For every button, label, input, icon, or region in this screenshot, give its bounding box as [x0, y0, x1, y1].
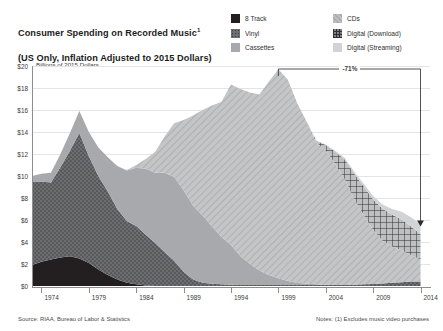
x-axis-tick-label: 1974 [44, 294, 58, 301]
x-axis-tick-label: 1979 [92, 294, 106, 301]
x-axis-tick-label: 2004 [329, 294, 343, 301]
legend-column-left: 8 TrackVinylCassettes [231, 14, 333, 52]
x-axis-tick [136, 287, 137, 293]
legend-swatch-icon-cds [333, 14, 342, 23]
legend-label-vinyl: Vinyl [245, 29, 259, 38]
title-footnote-marker: 1 [197, 27, 200, 33]
y-axis-tick-label: $20 [6, 63, 28, 70]
y-axis-tick-label: $2 [6, 261, 28, 268]
legend-item-8track[interactable]: 8 Track [231, 14, 333, 23]
y-axis-tick-label: $10 [6, 173, 28, 180]
x-axis-tick [89, 287, 90, 293]
legend-label-cds: CDs [347, 14, 360, 23]
x-axis-tick-label: 2009 [376, 294, 390, 301]
legend-item-download[interactable]: Digital (Download) [333, 29, 439, 38]
y-axis-tick-label: $14 [6, 129, 28, 136]
y-axis-tick-label: $4 [6, 239, 28, 246]
x-axis-tick [326, 287, 327, 293]
x-axis-tick-label: 2014 [424, 294, 438, 301]
x-axis-tick [41, 287, 42, 293]
legend-label-streaming: Digital (Streaming) [347, 43, 402, 52]
legend-swatch-icon-8track [231, 14, 240, 23]
x-axis-tick-label: 1989 [187, 294, 201, 301]
page-title: Consumer Spending on Recorded Music1 (US… [18, 12, 212, 65]
title-line-1: Consumer Spending on Recorded Music [18, 28, 197, 38]
y-axis-tick-label: $16 [6, 107, 28, 114]
x-axis-tick-label: 1999 [281, 294, 295, 301]
stacked-area-chart [32, 66, 430, 286]
legend-swatch-icon-streaming [333, 43, 342, 52]
x-axis-tick [278, 287, 279, 293]
chart-legend: 8 TrackVinylCassettes CDsDigital (Downlo… [231, 14, 439, 52]
y-axis-tick-label: $18 [6, 85, 28, 92]
legend-swatch-icon-download [333, 29, 342, 38]
x-axis-tick [184, 287, 185, 293]
source-note: Source: RIAA, Bureau of Labor & Statisti… [18, 316, 130, 322]
legend-column-right: CDsDigital (Download)Digital (Streaming) [333, 14, 439, 52]
legend-swatch-icon-cassettes [231, 43, 240, 52]
legend-swatch-icon-vinyl [231, 29, 240, 38]
area-series-group [32, 69, 421, 286]
x-axis-tick [421, 287, 422, 293]
legend-item-cassettes[interactable]: Cassettes [231, 43, 333, 52]
legend-label-download: Digital (Download) [347, 29, 401, 38]
legend-label-cassettes: Cassettes [245, 43, 274, 52]
x-axis-tick [231, 287, 232, 293]
legend-item-streaming[interactable]: Digital (Streaming) [333, 43, 439, 52]
x-axis-tick-label: 1994 [234, 294, 248, 301]
footnote-note: Notes: (1) Excludes music video purchase… [316, 316, 429, 322]
y-axis-tick-label: $8 [6, 195, 28, 202]
legend-label-8track: 8 Track [245, 14, 267, 23]
legend-item-cds[interactable]: CDs [333, 14, 439, 23]
y-axis-tick-label: $6 [6, 217, 28, 224]
x-axis-tick [373, 287, 374, 293]
chart-root: Consumer Spending on Recorded Music1 (US… [0, 0, 443, 331]
x-axis-tick-label: 1984 [139, 294, 153, 301]
plot-area [32, 66, 430, 286]
y-axis-tick-label: $0 [6, 283, 28, 290]
legend-item-vinyl[interactable]: Vinyl [231, 29, 333, 38]
y-axis-tick-label: $12 [6, 151, 28, 158]
y-axis-line [32, 66, 33, 288]
